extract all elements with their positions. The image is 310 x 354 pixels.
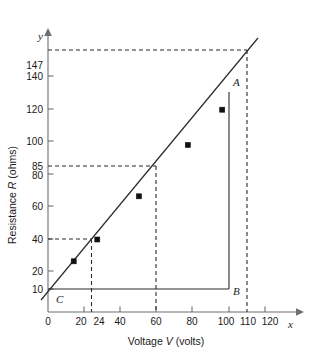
vertex-label-a: A <box>232 76 240 88</box>
x-axis-arrow-icon <box>296 308 304 316</box>
dashed-guides-group <box>48 50 247 312</box>
x-tick-marks <box>84 307 265 313</box>
y-axis-arrow-icon <box>44 28 52 36</box>
data-point <box>136 194 141 199</box>
y-tick-labels: 10 20 40 60 80 85 100 120 140 147 <box>26 60 43 295</box>
y-axis-letter: y <box>37 30 43 42</box>
vertex-label-c: C <box>56 293 64 305</box>
data-point <box>95 237 100 242</box>
data-point <box>220 107 225 112</box>
y-tick-marks <box>48 76 54 289</box>
x-tick-label-60: 60 <box>150 316 162 327</box>
data-point <box>71 259 76 264</box>
data-points-group <box>71 107 225 264</box>
y-tick-label-120: 120 <box>26 104 43 115</box>
y-axis-title-post: (ohms) <box>6 146 18 182</box>
y-tick-label-147: 147 <box>26 60 43 71</box>
x-tick-label-120: 120 <box>262 316 279 327</box>
x-tick-label-20: 20 <box>75 316 87 327</box>
x-tick-label-110: 110 <box>240 316 256 327</box>
vertex-label-b: B <box>233 285 240 297</box>
y-tick-label-40: 40 <box>32 234 44 245</box>
y-tick-label-60: 60 <box>32 201 44 212</box>
chart-svg: 0 20 24 40 60 80 100 110 120 10 20 40 60… <box>0 0 310 354</box>
y-tick-label-100: 100 <box>26 136 43 147</box>
resistance-voltage-chart: 0 20 24 40 60 80 100 110 120 10 20 40 60… <box>0 0 310 354</box>
data-point <box>185 143 190 148</box>
x-axis-title-post: (volts) <box>173 335 205 347</box>
axes-group <box>44 28 304 316</box>
y-axis-title-pre: Resistance <box>6 189 18 244</box>
y-tick-label-140: 140 <box>26 71 43 82</box>
y-axis-title: Resistance R (ohms) <box>6 146 18 244</box>
x-tick-labels: 0 20 24 40 60 80 100 110 120 <box>45 316 279 327</box>
x-tick-label-0: 0 <box>45 316 51 327</box>
x-tick-label-80: 80 <box>186 316 198 327</box>
x-axis-title-pre: Voltage <box>128 335 166 347</box>
y-tick-label-85: 85 <box>32 161 44 172</box>
x-tick-label-40: 40 <box>114 316 126 327</box>
y-tick-label-20: 20 <box>32 266 44 277</box>
x-tick-label-100: 100 <box>218 316 235 327</box>
x-axis-title: Voltage V (volts) <box>128 335 204 347</box>
y-tick-label-10: 10 <box>32 284 44 295</box>
x-tick-label-24: 24 <box>93 316 105 327</box>
x-axis-letter: x <box>287 318 293 330</box>
